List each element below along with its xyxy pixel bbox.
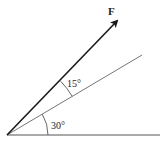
reference-line-30deg <box>7 55 142 135</box>
force-angle-diagram: F 15° 30° <box>0 0 160 144</box>
angle-label-15: 15° <box>67 78 81 89</box>
force-label: F <box>108 5 115 17</box>
angle-arc-30deg <box>42 114 48 135</box>
force-vector-arrow <box>7 21 117 135</box>
angle-label-30: 30° <box>51 120 65 131</box>
